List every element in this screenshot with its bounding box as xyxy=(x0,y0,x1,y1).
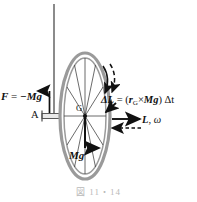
support-force-label: F = −Mg xyxy=(1,91,42,102)
delta-t: Δt xyxy=(165,94,175,105)
figure-caption: 図 11・14 xyxy=(0,188,197,197)
angular-momentum-omega-label: L, ω xyxy=(142,115,161,126)
delta-L-lhs: ΔL xyxy=(101,94,114,105)
delta-angular-momentum-label: ΔL = (rG×Mg) Δt xyxy=(101,95,174,107)
weight-label: Mg xyxy=(69,150,84,161)
omega-symbol: ω xyxy=(154,114,161,125)
delta-L-weight: Mg xyxy=(144,94,159,105)
force-value: −Mg xyxy=(20,90,42,102)
pivot-point-A-label: A xyxy=(31,110,39,121)
center-of-gravity-G-label: G xyxy=(76,104,82,113)
